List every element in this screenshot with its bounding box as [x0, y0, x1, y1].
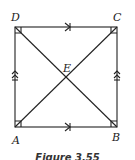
label-c: C: [113, 12, 121, 23]
label-a: A: [12, 135, 20, 146]
figure-caption: Figure 3.55: [0, 152, 135, 160]
label-e: E: [63, 63, 71, 74]
label-d: D: [11, 12, 20, 23]
label-b: B: [112, 132, 120, 143]
